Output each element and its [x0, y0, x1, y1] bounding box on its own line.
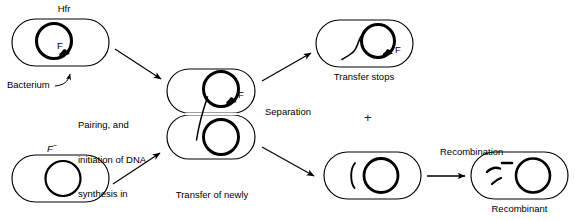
f-minus-label: F−	[47, 140, 57, 155]
arrow-separation-up	[262, 53, 311, 81]
pairing-caption-line-1: Pairing, and	[78, 119, 146, 131]
f-minus-superscript: −	[53, 141, 57, 150]
conjugation-diagram: Hfr F Bacterium F− Pairing, and initiati…	[0, 0, 575, 221]
transfer-caption-line-1: Transfer of newly	[157, 189, 267, 201]
bacterium-leader-line	[55, 74, 70, 86]
separation-label: Separation	[265, 106, 311, 118]
hfr-f-factor-label: F	[57, 40, 63, 52]
pairing-caption: Pairing, and initiation of DNA synthesis…	[78, 96, 146, 221]
donor-after-f-label: F	[395, 44, 401, 56]
hfr-label: Hfr	[34, 3, 94, 15]
recombinant-membrane	[471, 152, 568, 199]
recipient-after-separation-cell	[324, 152, 421, 199]
conjugating-f-factor-segment	[229, 100, 232, 104]
leader-bacterium	[55, 74, 70, 86]
conjugating-f-label: F	[238, 89, 244, 101]
pairing-caption-line-3: synthesis in	[78, 188, 146, 200]
pairing-caption-line-2: initiation of DNA	[78, 154, 146, 166]
transfer-stops-label: Transfer stops	[309, 71, 419, 83]
recombinant-label: Recombinant	[466, 203, 573, 215]
arrow-hfr-to-pairing	[115, 49, 161, 79]
arrow-separation-down	[262, 147, 314, 176]
hfr-f-factor-segment	[62, 52, 65, 56]
transfer-caption: Transfer of newly replicated strand	[157, 166, 267, 221]
bacterium-label: Bacterium	[7, 79, 50, 91]
plus-symbol: +	[364, 110, 372, 125]
recombinant-cell	[471, 152, 568, 199]
recombination-label: Recombination	[440, 146, 503, 158]
conjugating-cell-pair	[167, 69, 255, 159]
donor-after-f-factor	[385, 52, 388, 55]
recipient-after-membrane	[324, 152, 421, 199]
